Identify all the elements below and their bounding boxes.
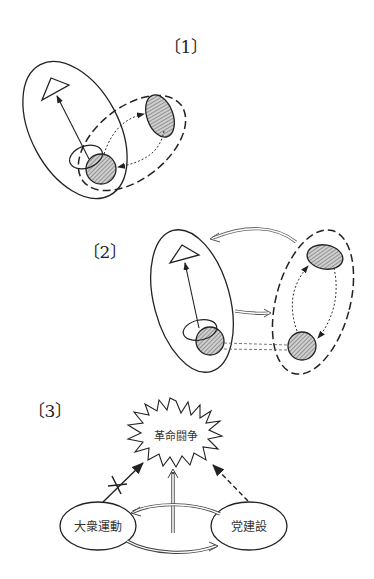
panel-1: 〔1〕 — [1, 37, 208, 216]
shaded-circle-right — [288, 332, 316, 360]
dashed-connector-top — [224, 343, 288, 345]
hatched-ellipse — [140, 91, 179, 141]
panel-2-label: 〔2〕 — [83, 242, 128, 262]
triangle-icon — [170, 245, 199, 263]
panel-2: 〔2〕 — [83, 221, 368, 383]
panel-3-label: 〔3〕 — [28, 401, 73, 421]
diagram-canvas: 〔1〕 〔2〕 — [0, 0, 374, 579]
outer-solid-ellipse — [1, 44, 148, 216]
solid-arrow — [185, 263, 199, 328]
dashed-enclosure — [258, 221, 368, 383]
dashed-connector-bottom — [224, 349, 288, 350]
hollow-arrow-left — [213, 229, 296, 242]
node-revolutionary-struggle: 革命闘争 — [154, 429, 198, 443]
dotted-arrow-down — [318, 268, 336, 338]
dashed-arrow — [213, 465, 248, 501]
shaded-circle — [196, 327, 224, 355]
solid-arrow — [57, 96, 89, 159]
panel-1-label: 〔1〕 — [164, 37, 209, 57]
outer-solid-ellipse — [136, 221, 247, 382]
dashed-enclosure — [61, 76, 203, 209]
triangle-icon — [42, 78, 69, 100]
hatched-ellipse — [305, 242, 345, 272]
panel-3: 〔3〕 革命闘争 大衆運動 党建設 — [28, 398, 287, 552]
blocked-arrow — [103, 463, 143, 502]
dotted-arrow-up — [292, 266, 308, 331]
node-mass-movement: 大衆運動 — [74, 520, 122, 534]
node-party-building: 党建設 — [231, 519, 267, 534]
